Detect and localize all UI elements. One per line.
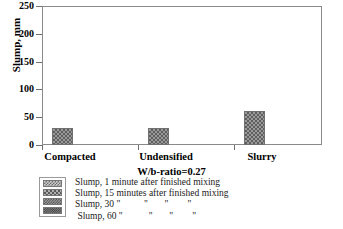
y-tick-label-100: 100: [0, 84, 34, 94]
legend-label-series-3: Slump, 30 " " " ": [75, 199, 229, 210]
slump-bar-chart: Slump, mm 250 200 150 100 50 0 Compacted…: [0, 0, 343, 229]
legend-label-series-1: Slump, 1 minute after finished mixing: [75, 177, 229, 188]
bar-undensified: [148, 128, 169, 145]
y-tick-label-50: 50: [0, 112, 34, 122]
plot-area: [42, 6, 322, 145]
x-axis-title: W/b-ratio=0.27: [0, 166, 343, 177]
x-tick-mark-0: [42, 145, 43, 150]
x-tick-mark-1: [138, 145, 139, 150]
y-tick-label-250: 250: [0, 1, 34, 11]
x-axis-label-undensified: Undensified: [118, 151, 214, 162]
legend-swatch-series-1: [43, 180, 62, 187]
legend-label-series-2: Slump, 15 minutes after finished mixing: [75, 188, 229, 199]
x-axis-label-compacted: Compacted: [22, 151, 118, 162]
y-tick-label-150: 150: [0, 57, 34, 67]
legend: Slump, 1 minute after finished mixing Sl…: [39, 177, 229, 222]
y-axis-title: Slump, mm: [10, 0, 24, 90]
legend-labels: Slump, 1 minute after finished mixing Sl…: [75, 177, 229, 222]
legend-label-series-4: Slump, 60 " " " ": [75, 211, 229, 222]
y-tick-label-200: 200: [0, 29, 34, 39]
legend-swatch-box: [39, 177, 66, 217]
x-axis-label-slurry: Slurry: [214, 151, 310, 162]
y-tick-label-0: 0: [0, 140, 34, 150]
legend-swatch-series-3: [43, 198, 62, 205]
x-tick-mark-2: [234, 145, 235, 150]
legend-swatch-series-4: [43, 207, 62, 214]
bar-slurry: [244, 111, 265, 145]
bar-compacted: [52, 128, 73, 145]
legend-swatch-series-2: [43, 189, 62, 196]
